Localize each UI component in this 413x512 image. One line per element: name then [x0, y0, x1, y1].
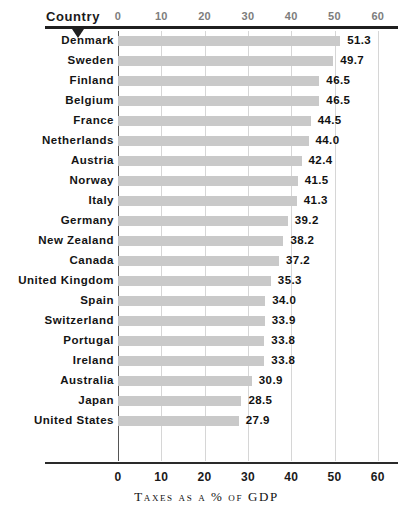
bar-row[interactable]: Netherlands44.0 [0, 131, 413, 151]
x-tick-bottom-20: 20 [198, 470, 212, 484]
country-label: Sweden [0, 54, 114, 66]
bar-value-label: 33.9 [272, 314, 296, 326]
header-rule [45, 26, 398, 29]
x-tick-top-30: 30 [241, 10, 254, 22]
x-tick-top-50: 50 [328, 10, 341, 22]
x-axis-top-ticks: 0102030405060 [0, 10, 413, 24]
bar-value-label: 49.7 [340, 54, 364, 66]
country-label: Austria [0, 154, 114, 166]
bar [118, 76, 319, 86]
bar-value-label: 33.8 [271, 354, 295, 366]
bar-row[interactable]: Sweden49.7 [0, 51, 413, 71]
bar [118, 116, 311, 126]
country-label: Portugal [0, 334, 114, 346]
bar [118, 396, 241, 406]
bar-row[interactable]: Belgium46.5 [0, 91, 413, 111]
bar-rows: Denmark51.3Sweden49.7Finland46.5Belgium4… [0, 31, 413, 431]
bar-row[interactable]: Denmark51.3 [0, 31, 413, 51]
bar-row[interactable]: Finland46.5 [0, 71, 413, 91]
bar-row[interactable]: Spain34.0 [0, 291, 413, 311]
bar-row[interactable]: Canada37.2 [0, 251, 413, 271]
country-label: France [0, 114, 114, 126]
bar-row[interactable]: Austria42.4 [0, 151, 413, 171]
bar [118, 256, 279, 266]
bar [118, 36, 340, 46]
bar [118, 216, 288, 226]
bar-row[interactable]: Germany39.2 [0, 211, 413, 231]
bar [118, 236, 283, 246]
bottom-axis-rule [45, 462, 398, 464]
x-tick-bottom-40: 40 [284, 470, 298, 484]
x-tick-top-10: 10 [155, 10, 168, 22]
bar-row[interactable]: Switzerland33.9 [0, 311, 413, 331]
bar-row[interactable]: Italy41.3 [0, 191, 413, 211]
bar [118, 416, 239, 426]
country-label: Italy [0, 194, 114, 206]
country-label: United States [0, 414, 114, 426]
country-label: Germany [0, 214, 114, 226]
country-label: Finland [0, 74, 114, 86]
bar [118, 196, 297, 206]
bar-value-label: 38.2 [290, 234, 314, 246]
bar-row[interactable]: United States27.9 [0, 411, 413, 431]
country-label: Belgium [0, 94, 114, 106]
bar [118, 56, 333, 66]
country-label: Spain [0, 294, 114, 306]
country-label: Switzerland [0, 314, 114, 326]
bar [118, 316, 265, 326]
tax-gdp-bar-chart: Country 0102030405060 Denmark51.3Sweden4… [0, 0, 413, 512]
bar [118, 276, 271, 286]
bar-row[interactable]: Portugal33.8 [0, 331, 413, 351]
bar-value-label: 39.2 [295, 214, 319, 226]
bar-value-label: 51.3 [347, 34, 371, 46]
bar-row[interactable]: Ireland33.8 [0, 351, 413, 371]
bar [118, 376, 252, 386]
x-tick-bottom-30: 30 [241, 470, 255, 484]
bar [118, 176, 298, 186]
bar-value-label: 30.9 [259, 374, 283, 386]
bar-value-label: 44.0 [316, 134, 340, 146]
x-tick-top-20: 20 [198, 10, 211, 22]
bar-value-label: 34.0 [272, 294, 296, 306]
bar-value-label: 41.5 [305, 174, 329, 186]
bar [118, 356, 264, 366]
bar [118, 296, 265, 306]
country-label: Japan [0, 394, 114, 406]
country-label: Canada [0, 254, 114, 266]
x-tick-bottom-50: 50 [328, 470, 342, 484]
country-label: New Zealand [0, 234, 114, 246]
bar [118, 136, 309, 146]
bar-value-label: 37.2 [286, 254, 310, 266]
bar-value-label: 42.4 [309, 154, 333, 166]
bar-value-label: 27.9 [246, 414, 270, 426]
country-label: Denmark [0, 34, 114, 46]
x-tick-bottom-60: 60 [371, 470, 385, 484]
x-tick-top-0: 0 [115, 10, 121, 22]
bar-value-label: 44.5 [318, 114, 342, 126]
bar-value-label: 33.8 [271, 334, 295, 346]
bar-row[interactable]: New Zealand38.2 [0, 231, 413, 251]
bar-value-label: 35.3 [278, 274, 302, 286]
x-tick-top-40: 40 [285, 10, 298, 22]
x-axis-title: Taxes as a % of GDP [0, 489, 413, 505]
country-label: Australia [0, 374, 114, 386]
bar [118, 96, 319, 106]
country-label: Netherlands [0, 134, 114, 146]
country-label: United Kingdom [0, 274, 114, 286]
bar-row[interactable]: Norway41.5 [0, 171, 413, 191]
x-tick-bottom-0: 0 [115, 470, 122, 484]
bar-value-label: 46.5 [326, 74, 350, 86]
bar-value-label: 46.5 [326, 94, 350, 106]
bar-value-label: 28.5 [248, 394, 272, 406]
x-tick-top-60: 60 [371, 10, 384, 22]
bar-value-label: 41.3 [304, 194, 328, 206]
x-axis-bottom-ticks: 0102030405060 [0, 470, 413, 486]
bar-row[interactable]: Australia30.9 [0, 371, 413, 391]
country-label: Norway [0, 174, 114, 186]
bar-row[interactable]: United Kingdom35.3 [0, 271, 413, 291]
x-tick-bottom-10: 10 [154, 470, 168, 484]
bar [118, 336, 264, 346]
bar [118, 156, 302, 166]
bar-row[interactable]: Japan28.5 [0, 391, 413, 411]
bar-row[interactable]: France44.5 [0, 111, 413, 131]
